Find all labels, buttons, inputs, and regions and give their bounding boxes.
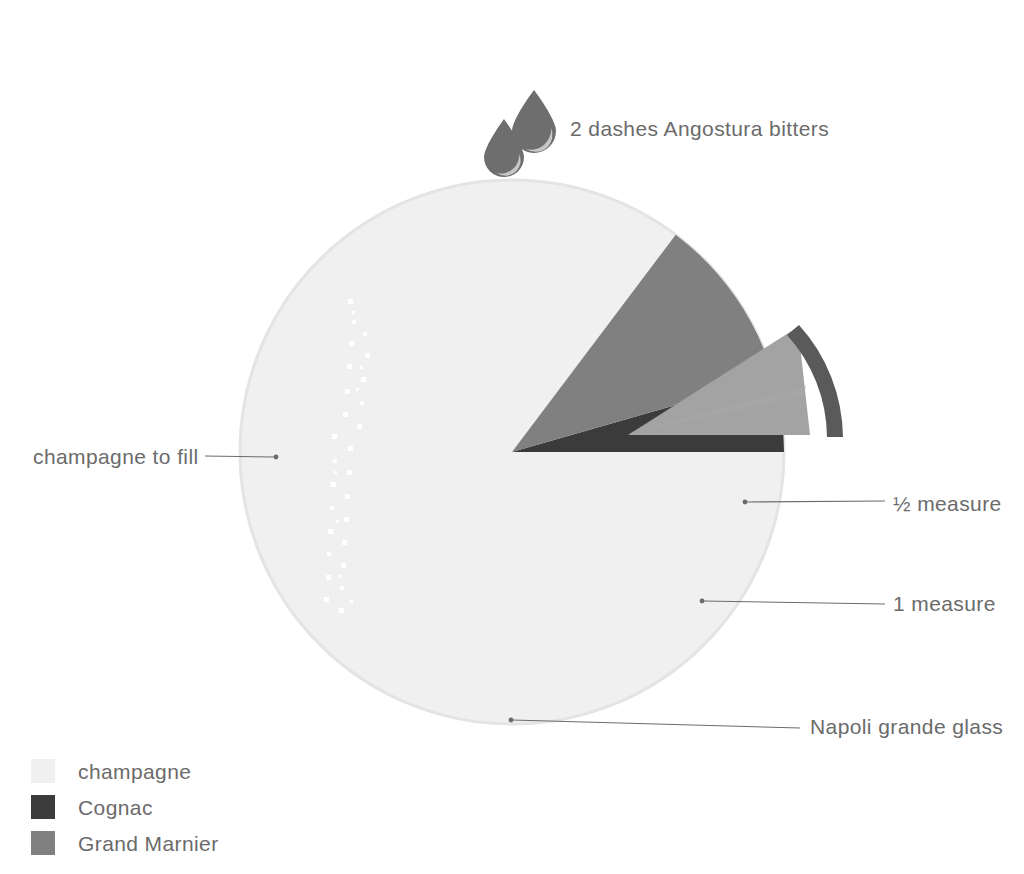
annotation-napoli-grande-glass: Napoli grande glass [810, 716, 1003, 737]
legend-item-cognac[interactable]: Cognac [31, 789, 331, 825]
annotation-champagne-to-fill: champagne to fill [33, 446, 199, 467]
droplet-icon [484, 90, 556, 177]
annotation-one-measure: 1 measure [893, 593, 996, 614]
legend-swatch-grand-marnier [31, 831, 55, 855]
legend-label-grand-marnier: Grand Marnier [78, 833, 219, 854]
legend-item-champagne[interactable]: champagne [31, 753, 331, 789]
annotation-half-measure: ½ measure [893, 493, 1002, 514]
legend-swatch-champagne [31, 759, 55, 783]
legend-label-cognac: Cognac [78, 797, 153, 818]
legend-item-grand-marnier[interactable]: Grand Marnier [31, 825, 331, 861]
cocktail-pie-diagram [0, 0, 1024, 874]
legend-swatch-cognac [31, 795, 55, 819]
annotation-bitters: 2 dashes Angostura bitters [570, 118, 829, 139]
legend-label-champagne: champagne [78, 761, 191, 782]
legend: champagne Cognac Grand Marnier [31, 753, 331, 861]
